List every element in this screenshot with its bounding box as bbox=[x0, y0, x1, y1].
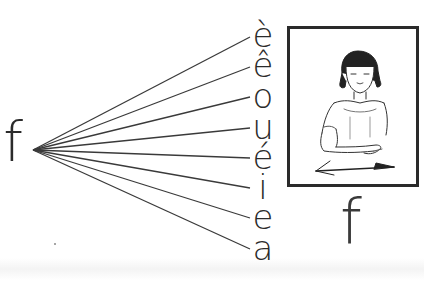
fan-line-2 bbox=[33, 97, 250, 150]
source-letter: f bbox=[0, 112, 26, 172]
fan-line-7 bbox=[33, 150, 250, 249]
fan-line-3 bbox=[33, 128, 250, 150]
caption-letter: f bbox=[336, 190, 366, 254]
fan-line-1 bbox=[33, 67, 250, 150]
fan-line-5 bbox=[33, 150, 250, 188]
syllable-fan-diagram: f è ê o u é i e a bbox=[0, 0, 424, 292]
fan-line-4 bbox=[33, 150, 250, 158]
vowel-a: a bbox=[248, 233, 278, 263]
illustration-frame bbox=[287, 26, 419, 187]
fan-line-0 bbox=[33, 37, 250, 150]
girl-signing-illustration bbox=[290, 29, 416, 184]
fan-line-6 bbox=[33, 150, 250, 218]
